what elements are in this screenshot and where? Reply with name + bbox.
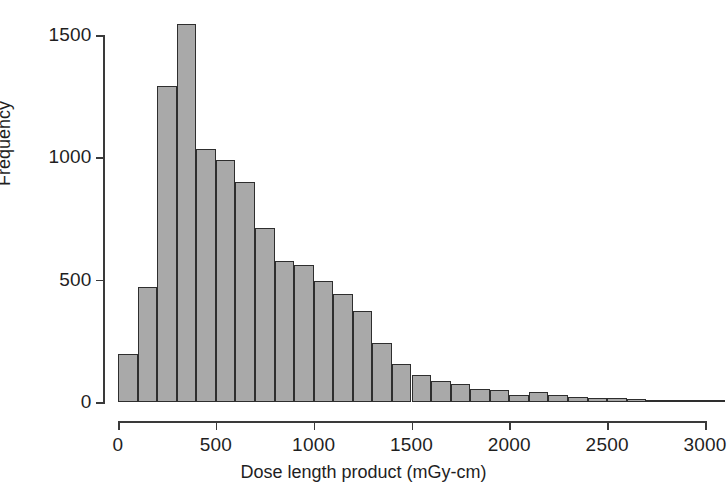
histogram-bar — [196, 149, 216, 402]
x-axis-tick-label: 500 — [200, 434, 232, 456]
histogram-bar — [216, 160, 236, 402]
histogram-bar — [392, 364, 412, 402]
histogram-bar — [294, 265, 314, 402]
y-axis: 050010001500 — [103, 35, 105, 402]
histogram-bar — [314, 281, 334, 402]
histogram-bar — [529, 392, 549, 402]
histogram-bar — [235, 182, 255, 402]
x-axis-title: Dose length product (mGy-cm) — [0, 462, 727, 483]
histogram-bar — [177, 24, 197, 402]
histogram-bar — [588, 398, 608, 402]
histogram-bar — [666, 400, 686, 402]
x-axis-tick — [118, 421, 120, 430]
x-axis-tick — [412, 421, 414, 430]
histogram-bar — [157, 86, 177, 402]
y-axis-tick-label: 500 — [59, 269, 91, 291]
histogram-bar — [705, 400, 725, 402]
histogram-bar — [490, 390, 510, 402]
y-axis-tick — [96, 35, 105, 37]
y-axis-tick — [96, 402, 105, 404]
histogram-bar — [509, 395, 529, 402]
x-axis-tick — [607, 421, 609, 430]
x-axis-tick-label: 2500 — [586, 434, 629, 456]
histogram-bar — [412, 375, 432, 402]
x-axis-tick — [509, 421, 511, 430]
y-axis-tick-label: 1000 — [48, 146, 91, 168]
x-axis-tick-label: 0 — [113, 434, 124, 456]
histogram-bar — [451, 384, 471, 402]
x-axis-tick-label: 2000 — [488, 434, 531, 456]
x-axis: 050010001500200025003000 — [118, 421, 705, 423]
x-axis-tick — [216, 421, 218, 430]
histogram-bar — [470, 389, 490, 402]
histogram-bar — [372, 343, 392, 402]
histogram-bar — [607, 398, 627, 402]
y-axis-tick — [96, 280, 105, 282]
histogram-bar — [353, 311, 373, 402]
histogram-bar — [275, 261, 295, 402]
x-axis-tick — [705, 421, 707, 430]
x-axis-tick-label: 1000 — [292, 434, 335, 456]
histogram-bars — [118, 20, 708, 402]
histogram-bar — [646, 400, 666, 402]
histogram-bar — [627, 399, 647, 402]
histogram-bar — [548, 395, 568, 402]
x-axis-tick — [314, 421, 316, 430]
histogram-bar — [431, 381, 451, 402]
x-axis-tick-label: 1500 — [390, 434, 433, 456]
histogram-bar — [255, 228, 275, 402]
histogram-bar — [685, 400, 705, 402]
y-axis-tick — [96, 157, 105, 159]
histogram-bar — [333, 294, 353, 402]
y-axis-tick-label: 1500 — [48, 24, 91, 46]
y-axis-title: Frequency — [0, 101, 15, 186]
histogram-bar — [568, 397, 588, 402]
histogram-bar — [138, 287, 158, 402]
plot-area — [118, 20, 708, 402]
x-axis-tick-label: 3000 — [683, 434, 726, 456]
histogram-figure: 050010001500 Frequency 05001000150020002… — [0, 0, 727, 502]
y-axis-tick-label: 0 — [81, 391, 92, 413]
histogram-bar — [118, 354, 138, 402]
